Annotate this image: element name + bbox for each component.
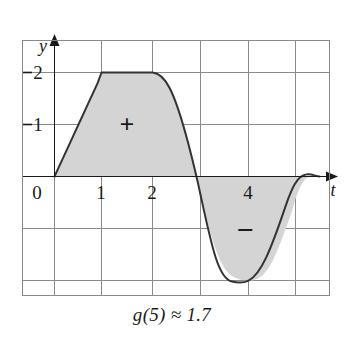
t-axis-label: t — [330, 180, 336, 200]
x-tick-label-2: 2 — [147, 182, 157, 203]
positive-region-marker: + — [120, 110, 135, 139]
x-tick-label-1: 1 — [96, 182, 106, 203]
figure-caption: g(5) ≈ 1.7 — [0, 304, 344, 326]
y-tick-label-1: 1 — [33, 114, 43, 135]
y-axis-label: y — [37, 36, 47, 56]
negative-region-marker: − — [236, 213, 253, 246]
y-tick-label-2: 2 — [33, 62, 43, 83]
x-tick-label-4: 4 — [243, 182, 253, 203]
graph-svg: 2 1 0 1 2 4 y t + − — [0, 0, 344, 341]
graph-figure: 2 1 0 1 2 4 y t + − — [0, 0, 344, 341]
x-tick-label-0: 0 — [32, 182, 42, 203]
